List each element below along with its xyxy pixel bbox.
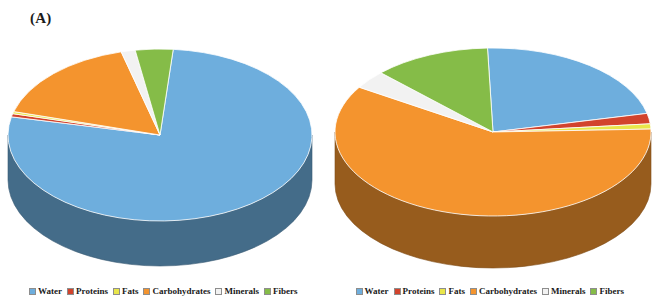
legend-label: Proteins [403, 286, 435, 296]
legend-item-proteins: Proteins [394, 286, 435, 296]
legend-label: Fats [448, 286, 465, 296]
legend-b: WaterProteinsFatsCarbohydratesMineralsFi… [327, 286, 653, 296]
legend-label: Carbohydrates [152, 286, 210, 296]
legend-label: Water [38, 286, 62, 296]
legend-item-carbohydrates: Carbohydrates [143, 286, 210, 296]
legend-label: Fibers [273, 286, 298, 296]
legend-swatch-minerals-icon [215, 288, 222, 295]
legend-swatch-water-icon [29, 288, 36, 295]
legend-label: Water [365, 286, 389, 296]
legend-swatch-fats-icon [439, 288, 446, 295]
legend-item-fibers: Fibers [264, 286, 298, 296]
legend-item-water: Water [356, 286, 389, 296]
legend-label: Carbohydrates [479, 286, 537, 296]
legend-swatch-water-icon [356, 288, 363, 295]
legend-item-fats: Fats [439, 286, 465, 296]
legend-item-minerals: Minerals [215, 286, 259, 296]
legend-item-carbohydrates: Carbohydrates [470, 286, 537, 296]
legend-swatch-minerals-icon [542, 288, 549, 295]
legend-swatch-carbohydrates-icon [143, 288, 150, 295]
panel-b: (B) Water: 22%Proteins: 2%Fats: 1%Carboh… [327, 0, 653, 298]
legend-swatch-carbohydrates-icon [470, 288, 477, 295]
pie-chart-b: Water: 22%Proteins: 2%Fats: 1%Carbohydra… [327, 0, 653, 270]
panel-a: (A) Water: 77%Proteins: 0.6%Fats: 0.4%Ca… [0, 0, 327, 298]
pie-chart-b-canvas: Water: 22%Proteins: 2%Fats: 1%Carbohydra… [327, 0, 653, 270]
legend-label: Fibers [599, 286, 624, 296]
legend-swatch-proteins-icon [394, 288, 401, 295]
figure-two-pie-charts: (A) Water: 77%Proteins: 0.6%Fats: 0.4%Ca… [0, 0, 653, 298]
legend-item-water: Water [29, 286, 62, 296]
pie-chart-a: Water: 77%Proteins: 0.6%Fats: 0.4%Carboh… [0, 0, 326, 270]
legend-swatch-fats-icon [113, 288, 120, 295]
legend-a: WaterProteinsFatsCarbohydratesMineralsFi… [0, 286, 327, 296]
legend-item-fats: Fats [113, 286, 139, 296]
legend-item-fibers: Fibers [590, 286, 624, 296]
legend-swatch-fibers-icon [590, 288, 597, 295]
legend-label: Proteins [76, 286, 108, 296]
legend-item-proteins: Proteins [67, 286, 108, 296]
legend-item-minerals: Minerals [542, 286, 586, 296]
legend-label: Fats [122, 286, 139, 296]
legend-label: Minerals [224, 286, 259, 296]
legend-label: Minerals [551, 286, 586, 296]
legend-swatch-fibers-icon [264, 288, 271, 295]
pie-chart-a-canvas: Water: 77%Proteins: 0.6%Fats: 0.4%Carboh… [0, 0, 326, 270]
legend-swatch-proteins-icon [67, 288, 74, 295]
